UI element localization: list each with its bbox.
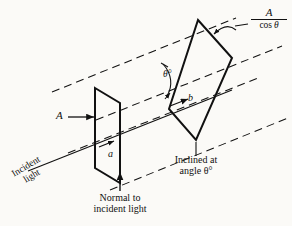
area-label-A: A [56, 110, 63, 122]
fraction-numerator: A [250, 7, 288, 18]
inclined-caption-line-2: angle θ° [152, 166, 240, 177]
angle-label-theta: θ° [163, 69, 171, 79]
normal-surface-caption: Normal to incident light [67, 193, 173, 215]
cos-text: cos [259, 20, 272, 30]
inclined-surface-shape [169, 20, 232, 140]
area-label-A-over-cos-theta: A cos θ [250, 7, 288, 31]
leader-arrow-icon [214, 24, 248, 34]
side-label-a: a [108, 149, 113, 160]
side-label-b: b [188, 93, 193, 104]
fraction-denominator: cos θ [250, 21, 288, 31]
theta-symbol: θ [274, 20, 279, 30]
optics-figure: A A cos θ a b θ° Incident light Normal t… [0, 0, 292, 226]
normal-caption-line-2: incident light [67, 204, 173, 215]
inclined-surface-caption: Inclined at angle θ° [152, 155, 240, 177]
